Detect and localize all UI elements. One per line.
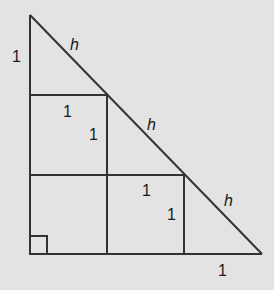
label-hyp-top: h <box>70 36 79 53</box>
label-bottom-right: 1 <box>218 262 227 279</box>
label-left-leg: 1 <box>12 48 21 65</box>
label-hyp-middle: h <box>147 116 156 133</box>
right-angle-marker <box>30 236 47 254</box>
label-square1-side: 1 <box>89 126 98 143</box>
label-square2-side: 1 <box>167 206 176 223</box>
hypotenuse <box>30 15 262 254</box>
triangle-diagram: 1 h 1 1 h 1 1 h 1 <box>0 0 274 290</box>
label-square2-top: 1 <box>142 182 151 199</box>
label-hyp-bottom: h <box>224 192 233 209</box>
label-square1-top: 1 <box>63 103 72 120</box>
